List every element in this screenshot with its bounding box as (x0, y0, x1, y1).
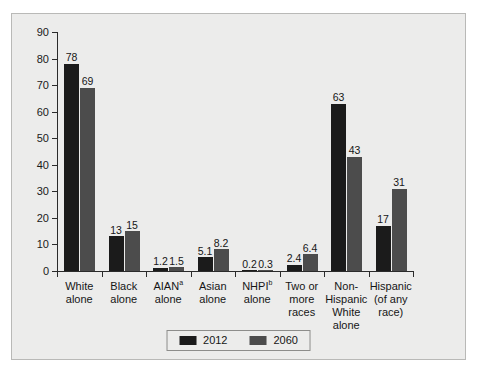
bar-group: 1315 (102, 31, 147, 271)
bar-value-label: 69 (82, 76, 94, 87)
bar[interactable]: 0.3 (258, 270, 273, 271)
bar-value-label: 13 (110, 225, 122, 236)
bar-value-label: 63 (333, 92, 345, 103)
bar[interactable]: 0.2 (242, 270, 257, 271)
x-tick-mark (280, 271, 281, 277)
bar-value-label: 43 (349, 145, 361, 156)
bar[interactable]: 78 (64, 64, 79, 271)
x-tick-mark (369, 271, 370, 277)
y-tick-label: 40 (37, 159, 49, 170)
bar-value-label: 2.4 (287, 253, 302, 264)
x-tick-mark (146, 271, 147, 277)
y-tick-label: 90 (37, 27, 49, 38)
bar[interactable]: 43 (347, 157, 362, 271)
bar[interactable]: 2.4 (287, 265, 302, 271)
bar-group: 5.18.2 (191, 31, 236, 271)
legend-label: 2012 (203, 335, 227, 346)
category-label: Two ormoreraces (280, 280, 325, 319)
bar-value-label: 5.1 (198, 246, 213, 257)
bar-group: 1.21.5 (146, 31, 191, 271)
bar-value-label: 6.4 (303, 243, 318, 254)
y-tick-label: 20 (37, 212, 49, 223)
bar[interactable]: 1.2 (153, 268, 168, 271)
bar-group: 1731 (369, 31, 414, 271)
y-tick-label: 10 (37, 239, 49, 250)
bar[interactable]: 6.4 (303, 254, 318, 271)
bar-group: 0.20.3 (235, 31, 280, 271)
x-tick-mark (191, 271, 192, 277)
footnote-marker: b (268, 279, 272, 286)
category-label: Non-HispanicWhitealone (324, 280, 369, 332)
category-label: Blackalone (102, 280, 147, 306)
legend-label: 2060 (274, 335, 298, 346)
bar[interactable]: 5.1 (198, 257, 213, 271)
chart-legend: 20122060 (166, 330, 311, 351)
bar-value-label: 31 (393, 177, 405, 188)
y-tick-label: 80 (37, 53, 49, 64)
x-tick-mark (413, 271, 414, 277)
y-tick-label: 50 (37, 133, 49, 144)
legend-item[interactable]: 2012 (179, 335, 227, 346)
bar[interactable]: 69 (80, 88, 95, 271)
bar[interactable]: 63 (331, 104, 346, 271)
bar-value-label: 78 (66, 52, 78, 63)
bar-value-label: 1.2 (153, 256, 168, 267)
x-tick-mark (57, 271, 58, 277)
y-tick-label: 70 (37, 80, 49, 91)
bar-value-label: 1.5 (169, 256, 184, 267)
category-label: AIANaalone (146, 280, 191, 306)
category-label: Whitealone (57, 280, 102, 306)
chart-figure: 0102030405060708090 786913151.21.55.18.2… (11, 13, 466, 360)
bar-value-label: 17 (377, 214, 389, 225)
bar-group: 6343 (324, 31, 369, 271)
y-tick-label: 30 (37, 186, 49, 197)
y-tick-label: 60 (37, 106, 49, 117)
y-tick-label: 0 (43, 266, 49, 277)
bar-group: 7869 (57, 31, 102, 271)
bar[interactable]: 15 (125, 231, 140, 271)
x-tick-mark (324, 271, 325, 277)
bar[interactable]: 31 (392, 189, 407, 271)
bar[interactable]: 8.2 (214, 249, 229, 271)
category-label: NHPIbalone (235, 280, 280, 306)
bar-value-label: 8.2 (214, 238, 229, 249)
bar[interactable]: 1.5 (169, 267, 184, 271)
category-label: Hispanic(of anyrace) (369, 280, 414, 319)
legend-item[interactable]: 2060 (250, 335, 298, 346)
bar-value-label: 0.2 (242, 259, 257, 270)
category-label: Asianalone (191, 280, 236, 306)
bar-group: 2.46.4 (280, 31, 325, 271)
bar-value-label: 15 (126, 220, 138, 231)
x-tick-mark (102, 271, 103, 277)
legend-swatch (179, 336, 196, 345)
bar-value-label: 0.3 (258, 259, 273, 270)
plot-area: 0102030405060708090 786913151.21.55.18.2… (57, 32, 413, 271)
legend-swatch (250, 336, 267, 345)
x-tick-mark (235, 271, 236, 277)
bar[interactable]: 17 (376, 226, 391, 271)
bar[interactable]: 13 (109, 236, 124, 271)
footnote-marker: a (179, 279, 183, 286)
